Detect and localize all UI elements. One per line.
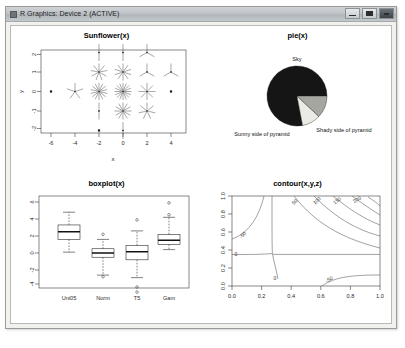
svg-text:0.4: 0.4 — [220, 246, 226, 254]
contour-plot-svg: 0.00.20.40.60.81.0 0.00.20.40.60.81.0 — [202, 176, 393, 323]
svg-text:y: y — [18, 90, 24, 93]
svg-text:2: 2 — [31, 53, 37, 56]
window-title-bar[interactable]: R Graphics: Device 2 (ACTIVE) — [6, 7, 396, 22]
svg-text:4: 4 — [29, 217, 35, 220]
svg-text:0: 0 — [31, 90, 37, 93]
svg-text:4: 4 — [169, 140, 172, 146]
svg-text:0.4: 0.4 — [287, 293, 295, 299]
svg-text:Shady side of pyramid: Shady side of pyramid — [316, 127, 371, 133]
svg-text:-2: -2 — [31, 126, 37, 131]
window-title: R Graphics: Device 2 (ACTIVE) — [20, 9, 119, 19]
svg-text:x: x — [112, 156, 115, 162]
close-icon[interactable] — [379, 8, 394, 19]
svg-text:0.8: 0.8 — [347, 293, 355, 299]
boxplot-category-label: Uni05 — [62, 295, 77, 301]
window-controls — [345, 8, 394, 19]
boxplot-panel: boxplot(x) 6 4 2 0 — [11, 176, 202, 323]
svg-text:0.6: 0.6 — [220, 228, 226, 236]
svg-text:0.6: 0.6 — [317, 293, 325, 299]
svg-text:0: 0 — [121, 140, 124, 146]
svg-text:0.2: 0.2 — [258, 293, 266, 299]
pie-chart-panel: pie(x) Sky Sunny side of pyramid Shady s… — [202, 28, 393, 176]
maximize-icon[interactable] — [362, 8, 377, 19]
r-graphics-icon — [10, 11, 17, 18]
svg-text:-2: -2 — [29, 268, 35, 273]
svg-text:0: 0 — [274, 275, 277, 281]
svg-text:-50: -50 — [238, 230, 247, 240]
svg-text:Sunny side of pyramid: Sunny side of pyramid — [234, 131, 289, 137]
svg-text:0: 0 — [235, 251, 238, 257]
svg-text:0.2: 0.2 — [220, 264, 226, 272]
svg-text:50: 50 — [290, 197, 298, 205]
boxplot-category-label: Norm — [96, 295, 110, 301]
boxplot-category-label: T5 — [134, 295, 141, 301]
svg-text:-4: -4 — [29, 282, 35, 287]
svg-text:-1: -1 — [31, 109, 37, 114]
minimize-icon[interactable] — [345, 8, 360, 19]
sunflower-plot-panel: Sunflower(x) 2 1 0 -1 — [11, 28, 202, 176]
svg-text:6: 6 — [29, 200, 35, 203]
svg-text:-6: -6 — [49, 140, 54, 146]
svg-text:100: 100 — [312, 195, 322, 205]
svg-text:0.0: 0.0 — [228, 293, 236, 299]
boxplot-category-label: Gam — [163, 295, 175, 301]
svg-text:0.0: 0.0 — [220, 282, 226, 290]
svg-text:2: 2 — [145, 140, 148, 146]
desktop-background: R Graphics: Device 2 (ACTIVE) Sunflower(… — [0, 0, 405, 348]
svg-text:1.0: 1.0 — [376, 293, 384, 299]
contour-plot-title: contour(x,y,z) — [202, 179, 393, 188]
svg-text:150: 150 — [332, 195, 342, 205]
pie-chart-svg: Sky Sunny side of pyramid Shady side of … — [202, 28, 393, 176]
boxplot-svg: 6 4 2 0 -2 -4 Uni05NormT5Gam — [11, 176, 202, 323]
plot-canvas: Sunflower(x) 2 1 0 -1 — [10, 25, 392, 324]
svg-text:Sky: Sky — [292, 56, 302, 62]
contour-plot-panel: contour(x,y,z) 0.00.20.40.60.81.0 0.00.2… — [202, 176, 393, 323]
r-graphics-window: R Graphics: Device 2 (ACTIVE) Sunflower(… — [5, 6, 397, 329]
sunflower-plot-svg: 2 1 0 -1 -2 y -6 -4 — [11, 28, 202, 176]
svg-text:1: 1 — [31, 70, 37, 73]
svg-text:-2: -2 — [97, 140, 102, 146]
pie-chart-title: pie(x) — [202, 31, 393, 40]
svg-text:-50: -50 — [324, 275, 333, 284]
svg-text:2: 2 — [29, 234, 35, 237]
svg-text:-4: -4 — [73, 140, 78, 146]
svg-text:0.8: 0.8 — [220, 210, 226, 218]
sunflower-plot-title: Sunflower(x) — [11, 31, 202, 40]
svg-text:0: 0 — [29, 251, 35, 254]
svg-text:1.0: 1.0 — [220, 192, 226, 200]
boxplot-title: boxplot(x) — [11, 179, 202, 188]
